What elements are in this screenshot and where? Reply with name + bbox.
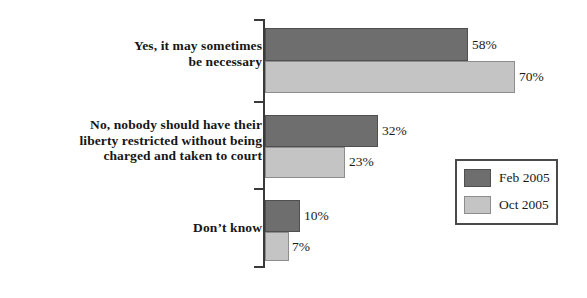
legend-item-feb-2005: Feb 2005 (464, 167, 549, 189)
bar-oct-2005-no (265, 147, 345, 178)
legend-swatch-icon (464, 196, 491, 214)
legend-item-oct-2005: Oct 2005 (464, 194, 549, 216)
category-label-line: be necessary (0, 54, 262, 70)
bar-feb-2005-no (265, 115, 378, 147)
bar-value-label: 7% (292, 240, 310, 254)
bar-value-label: 23% (349, 155, 374, 169)
category-label-line: No, nobody should have their (0, 117, 262, 133)
legend-label: Oct 2005 (499, 198, 549, 212)
category-label-line: liberty restricted without being (0, 133, 262, 149)
bar-oct-2005-dont-know (265, 232, 289, 261)
bar-oct-2005-yes (265, 61, 515, 93)
axis-tick (254, 101, 264, 103)
chart-legend: Feb 2005 Oct 2005 (455, 159, 558, 225)
bar-feb-2005-dont-know (265, 200, 300, 232)
bar-value-label: 58% (472, 38, 497, 52)
bar-value-label: 32% (382, 124, 407, 138)
legend-swatch-icon (464, 169, 491, 187)
bar-feb-2005-yes (265, 28, 468, 61)
axis-tick (254, 188, 264, 190)
bar-chart: Yes, it may sometimes be necessary No, n… (0, 0, 587, 298)
category-label-line: Don’t know (0, 220, 262, 236)
legend-label: Feb 2005 (499, 171, 550, 185)
bar-value-label: 70% (519, 70, 544, 84)
category-label-dont-know: Don’t know (0, 220, 262, 236)
category-label-line: Yes, it may sometimes (0, 38, 262, 54)
axis-tick (254, 19, 264, 21)
axis-tick (254, 266, 264, 268)
category-label-yes: Yes, it may sometimes be necessary (0, 38, 262, 69)
category-label-no: No, nobody should have their liberty res… (0, 117, 262, 164)
category-label-line: charged and taken to court (0, 148, 262, 164)
bar-value-label: 10% (304, 209, 329, 223)
